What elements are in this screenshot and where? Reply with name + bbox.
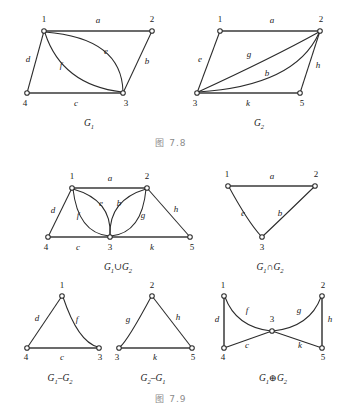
edge-label-b: b — [145, 56, 150, 66]
vertex-label-3: 3 — [193, 98, 198, 108]
edge-label-d: d — [26, 54, 31, 64]
edge-h — [147, 188, 190, 237]
vertex-2 — [150, 29, 155, 34]
vertex-3 — [195, 91, 200, 96]
edge-label-a: a — [96, 15, 101, 25]
vertex-label-3: 3 — [270, 314, 275, 324]
graph-g1-intersect-g2: 1 2 3 a e b G1∩G2 — [225, 169, 319, 274]
vertex-label-3: 3 — [115, 352, 120, 362]
edge-label-c: c — [76, 242, 80, 252]
graph-caption-minus-1: G1–G2 — [48, 373, 74, 385]
graph-caption-g1: G1 — [84, 118, 94, 130]
edge-label-b: b — [265, 68, 270, 78]
edge-g — [120, 297, 151, 347]
edge-label-c: c — [74, 98, 78, 108]
vertex-label-2: 2 — [314, 169, 319, 179]
vertex-2 — [150, 294, 155, 299]
vertex-3 — [117, 346, 122, 351]
vertex-4 — [25, 346, 30, 351]
graph-caption-symdiff: G1⊕G2 — [259, 373, 288, 385]
vertex-1 — [218, 29, 223, 34]
edge-h — [152, 296, 192, 348]
vertex-label-1: 1 — [225, 169, 230, 179]
figure-caption-79: 图 7.9 — [155, 394, 186, 404]
edge-label-d: d — [215, 314, 220, 324]
vertex-1 — [222, 294, 227, 299]
edge-label-e: e — [104, 46, 108, 56]
vertex-label-4: 4 — [23, 98, 28, 108]
vertex-label-1: 1 — [221, 280, 226, 290]
vertex-4 — [222, 346, 227, 351]
edge-d — [27, 296, 62, 348]
vertex-4 — [25, 91, 30, 96]
edge-label-f: f — [246, 305, 250, 315]
vertex-label-3: 3 — [260, 242, 265, 252]
vertex-label-1: 1 — [70, 171, 75, 181]
graph-figure-canvas: 1 2 3 4 a b c d e f G1 1 2 3 5 — [0, 0, 342, 420]
vertex-label-2: 2 — [145, 171, 150, 181]
vertex-label-1: 1 — [218, 14, 223, 24]
edge-label-a: a — [270, 15, 275, 25]
vertex-3 — [260, 235, 265, 240]
vertex-2 — [320, 294, 325, 299]
edge-label-g: g — [247, 49, 252, 59]
vertex-label-2: 2 — [150, 14, 155, 24]
edge-k — [272, 331, 322, 348]
edge-label-k: k — [246, 98, 251, 108]
edge-label-d: d — [51, 205, 56, 215]
edge-b — [263, 187, 314, 236]
edge-f — [45, 33, 122, 92]
vertex-label-2: 2 — [150, 280, 155, 290]
graph-g1-union-g2: 1 2 3 4 5 a d f e b g h c k G1∪G2 — [44, 171, 195, 274]
vertex-label-1: 1 — [60, 280, 65, 290]
vertex-label-3: 3 — [124, 98, 129, 108]
vertex-label-3: 3 — [108, 242, 113, 252]
vertex-4 — [46, 235, 51, 240]
graph-g1-symdiff-g2: 1 2 3 4 5 d f c g k h G1⊕G2 — [215, 280, 333, 385]
vertex-label-4: 4 — [221, 352, 226, 362]
edge-label-f: f — [76, 314, 80, 324]
graph-caption-union: G1∪G2 — [104, 262, 133, 274]
graph-caption-g2: G2 — [254, 118, 265, 130]
vertex-2 — [318, 29, 323, 34]
edge-label-g: g — [141, 210, 146, 220]
edge-label-h: h — [316, 60, 321, 70]
graph-g1: 1 2 3 4 a b c d e f G1 — [23, 14, 155, 130]
edge-label-a: a — [270, 171, 275, 181]
figure-page: 1 2 3 4 a b c d e f G1 1 2 3 5 — [0, 0, 342, 420]
vertex-label-1: 1 — [42, 14, 47, 24]
edge-label-c: c — [245, 340, 249, 350]
edge-label-h: h — [174, 204, 179, 214]
vertex-5 — [190, 346, 195, 351]
vertex-3 — [108, 235, 113, 240]
graph-g2-minus-g1: 2 3 5 g h k G2–G1 — [115, 280, 196, 385]
vertex-label-2: 2 — [319, 14, 324, 24]
edge-label-e: e — [241, 208, 245, 218]
vertex-2 — [313, 184, 318, 189]
edge-label-c: c — [60, 352, 64, 362]
edge-f — [63, 297, 98, 347]
vertex-1 — [60, 294, 65, 299]
edge-label-b: b — [278, 208, 283, 218]
graph-g2: 1 2 3 5 a e g b h k G2 — [193, 14, 324, 130]
vertex-5 — [320, 346, 325, 351]
vertex-1 — [226, 184, 231, 189]
graph-g1-minus-g2: 1 3 4 d f c G1–G2 — [24, 280, 103, 385]
graph-caption-intersect: G1∩G2 — [256, 262, 284, 274]
edge-label-b: b — [117, 198, 122, 208]
edge-label-g: g — [126, 314, 131, 324]
vertex-label-5: 5 — [321, 352, 326, 362]
vertex-3 — [97, 346, 102, 351]
vertex-label-5: 5 — [300, 98, 305, 108]
vertex-label-2: 2 — [321, 280, 326, 290]
vertex-3 — [121, 91, 126, 96]
edge-label-e: e — [198, 54, 202, 64]
vertex-label-4: 4 — [24, 352, 29, 362]
edge-label-d: d — [35, 313, 40, 323]
vertex-label-3: 3 — [98, 352, 103, 362]
vertex-label-4: 4 — [44, 242, 49, 252]
edge-e — [229, 187, 261, 236]
edge-label-k: k — [153, 352, 158, 362]
edge-label-a: a — [108, 173, 113, 183]
edge-label-e: e — [99, 198, 103, 208]
